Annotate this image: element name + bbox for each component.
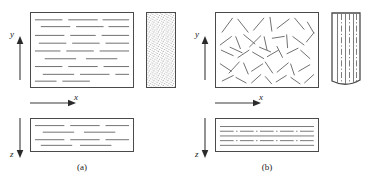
front-view-box-b [215, 12, 319, 88]
random-fiber-pattern-front-b [216, 13, 318, 87]
y-axis-label-b: y [195, 30, 199, 39]
aligned-fiber-pattern-bottom-a [31, 119, 133, 151]
panel-b-random-fibers: y [185, 0, 369, 184]
panel-a-caption: (a) [30, 162, 134, 172]
aligned-fiber-pattern-front-a [31, 13, 133, 87]
stipple-fiber-cross-section-pattern-a [147, 13, 175, 87]
horizontal-dashdot-fiber-pattern-b [216, 119, 318, 151]
panel-a-aligned-fibers: y [0, 0, 184, 184]
x-axis-label-b: x [259, 93, 263, 102]
front-view-box-a [30, 12, 134, 88]
x-axis-label-a: x [74, 93, 78, 102]
composite-fiber-orientation-figure: y [0, 0, 369, 184]
y-axis-arrow-a [14, 34, 26, 80]
bottom-view-box-a [30, 118, 134, 152]
x-axis-arrow-b [215, 98, 263, 108]
y-axis-label-a: y [10, 30, 14, 39]
z-axis-label-b: z [195, 150, 199, 159]
z-axis-arrow-b [199, 118, 211, 160]
z-axis-arrow-a [14, 118, 26, 160]
vertical-dashdot-fiber-pattern-b [331, 12, 361, 88]
bottom-view-box-b [215, 118, 319, 152]
panel-b-caption: (b) [215, 162, 319, 172]
y-axis-arrow-b [199, 34, 211, 80]
side-view-box-a [146, 12, 176, 88]
z-axis-label-a: z [10, 150, 14, 159]
side-view-box-b [331, 12, 361, 88]
x-axis-arrow-a [30, 98, 78, 108]
